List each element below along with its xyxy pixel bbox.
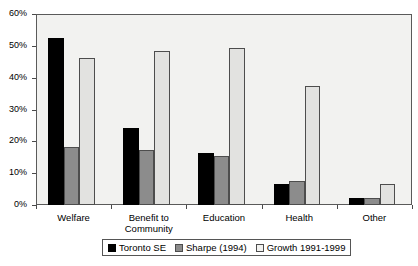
y-axis-tick-mark (32, 14, 36, 15)
x-axis-category-label: Other (337, 212, 412, 223)
legend-label: Growth 1991-1999 (267, 242, 346, 253)
y-axis-tick-mark (32, 141, 36, 142)
y-axis-tick-label: 20% (9, 136, 27, 145)
y-axis-tick-mark (32, 173, 36, 174)
y-axis: 0%10%20%30%40%50%60% (0, 0, 32, 266)
y-axis-tick-label: 50% (9, 41, 27, 50)
y-axis-tick-label: 40% (9, 73, 27, 82)
y-axis-tick-mark (32, 78, 36, 79)
y-axis-tick-label: 30% (9, 105, 27, 114)
x-axis-tick-mark (412, 205, 413, 209)
x-axis-category-label: Education (186, 212, 261, 223)
bar (123, 128, 139, 205)
bar (229, 48, 245, 205)
bar (364, 198, 380, 205)
legend-label: Toronto SE (119, 242, 166, 253)
x-axis-tick-mark (186, 205, 187, 209)
bar (289, 181, 305, 205)
y-axis-tick-label: 0% (14, 200, 27, 209)
bar (154, 51, 170, 205)
y-axis-tick-mark (32, 46, 36, 47)
bar (349, 198, 365, 205)
bar (305, 86, 321, 205)
x-axis-category-label: Health (262, 212, 337, 223)
x-axis-tick-mark (111, 205, 112, 209)
x-axis-category-label: Benefit to Community (111, 212, 186, 234)
x-axis-tick-mark (262, 205, 263, 209)
bar (198, 153, 214, 205)
legend-label: Sharpe (1994) (186, 242, 247, 253)
bar (380, 184, 396, 205)
bar-chart: 0%10%20%30%40%50%60% WelfareBenefit to C… (0, 0, 418, 266)
bar (214, 156, 230, 205)
x-axis-tick-mark (36, 205, 37, 209)
y-axis-tick-mark (32, 110, 36, 111)
legend-swatch-icon (256, 244, 264, 252)
y-axis-tick-label: 10% (9, 168, 27, 177)
bar (274, 184, 290, 205)
chart-legend: Toronto SESharpe (1994)Growth 1991-1999 (102, 239, 351, 256)
bar (79, 58, 95, 205)
bar (48, 38, 64, 205)
bar (139, 150, 155, 205)
legend-swatch-icon (108, 244, 116, 252)
y-axis-tick-label: 60% (9, 9, 27, 18)
x-axis-tick-mark (337, 205, 338, 209)
x-axis-category-label: Welfare (36, 212, 111, 223)
legend-item: Growth 1991-1999 (256, 242, 346, 253)
legend-swatch-icon (175, 244, 183, 252)
bar (64, 147, 80, 205)
legend-item: Sharpe (1994) (175, 242, 247, 253)
legend-item: Toronto SE (108, 242, 166, 253)
